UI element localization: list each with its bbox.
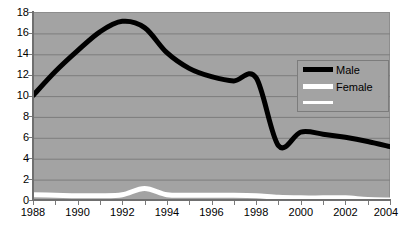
line-chart: 18 16 14 12 10 8 6 4 2 0 bbox=[0, 0, 407, 237]
x-tick-mark bbox=[189, 201, 190, 205]
x-tick-mark bbox=[100, 201, 101, 205]
x-tick-label: 1994 bbox=[147, 206, 187, 218]
x-tick-mark bbox=[278, 201, 279, 205]
x-tick-mark bbox=[145, 201, 146, 205]
x-tick-mark bbox=[167, 201, 168, 205]
legend-label-female: Female bbox=[336, 79, 373, 95]
y-tick-label: 6 bbox=[3, 132, 29, 143]
y-axis-labels: 18 16 14 12 10 8 6 4 2 0 bbox=[0, 0, 29, 237]
y-tick-label: 2 bbox=[3, 174, 29, 185]
x-tick-mark bbox=[390, 201, 391, 205]
y-tick-label: 8 bbox=[3, 111, 29, 122]
x-tick-label: 2000 bbox=[281, 206, 321, 218]
x-tick-label: 1996 bbox=[192, 206, 232, 218]
legend-item-third bbox=[298, 96, 390, 113]
legend-item-male: Male bbox=[298, 62, 390, 79]
x-tick-label: 2002 bbox=[325, 206, 365, 218]
y-tick-label: 18 bbox=[3, 7, 29, 18]
x-tick-label: 1992 bbox=[102, 206, 142, 218]
y-tick-label: 0 bbox=[3, 195, 29, 206]
x-tick-mark bbox=[78, 201, 79, 205]
x-tick-mark bbox=[301, 201, 302, 205]
legend-swatch-third bbox=[303, 101, 333, 104]
y-axis-line bbox=[32, 11, 34, 201]
legend-swatch-male bbox=[303, 67, 333, 72]
x-tick-mark bbox=[323, 201, 324, 205]
x-tick-label: 1988 bbox=[13, 206, 53, 218]
x-tick-mark bbox=[256, 201, 257, 205]
x-tick-mark bbox=[33, 201, 34, 205]
x-tick-mark bbox=[345, 201, 346, 205]
x-tick-mark bbox=[55, 201, 56, 205]
y-tick-label: 10 bbox=[3, 90, 29, 101]
legend: Male Female bbox=[297, 60, 389, 112]
y-tick-label: 14 bbox=[3, 48, 29, 59]
x-tick-mark bbox=[212, 201, 213, 205]
y-tick-label: 4 bbox=[3, 153, 29, 164]
x-tick-mark bbox=[368, 201, 369, 205]
x-tick-mark bbox=[234, 201, 235, 205]
legend-swatch-female bbox=[303, 84, 333, 89]
legend-label-male: Male bbox=[336, 62, 360, 78]
y-tick-label: 16 bbox=[3, 27, 29, 38]
x-axis-labels: 1988 1990 1992 1994 1996 1998 2000 2002 … bbox=[0, 206, 407, 226]
legend-item-female: Female bbox=[298, 79, 390, 96]
x-tick-label: 1998 bbox=[236, 206, 276, 218]
x-tick-mark bbox=[122, 201, 123, 205]
x-tick-label: 2004 bbox=[366, 206, 406, 218]
x-tick-label: 1990 bbox=[58, 206, 98, 218]
y-tick-label: 12 bbox=[3, 69, 29, 80]
